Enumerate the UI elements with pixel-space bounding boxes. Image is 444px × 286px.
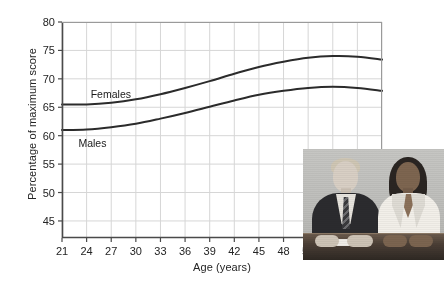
x-axis-title: Age (years) (62, 261, 382, 273)
x-tick-36: 36 (179, 246, 191, 257)
x-tick-42: 42 (228, 246, 240, 257)
x-tick-30: 30 (130, 246, 142, 257)
x-tick-21: 21 (56, 246, 68, 257)
photo-grain-overlay (303, 149, 444, 260)
y-tick-45: 45 (43, 215, 55, 226)
y-tick-65: 65 (43, 102, 55, 113)
x-tick-24: 24 (80, 246, 92, 257)
inset-photograph (303, 149, 444, 260)
x-tick-48: 48 (277, 246, 289, 257)
x-tick-27: 27 (105, 246, 117, 257)
y-axis-title: Percentage of maximum score (26, 14, 38, 234)
y-tick-55: 55 (43, 159, 55, 170)
y-tick-70: 70 (43, 73, 55, 84)
y-tick-60: 60 (43, 130, 55, 141)
x-tick-45: 45 (253, 246, 265, 257)
y-tick-80: 80 (43, 17, 55, 28)
y-tick-75: 75 (43, 45, 55, 56)
plot-area: 4550556065707580 21242730333639424548515… (62, 22, 382, 238)
y-tick-50: 50 (43, 187, 55, 198)
annotation-males: Males (78, 138, 106, 149)
x-tick-33: 33 (154, 246, 166, 257)
annotation-females: Females (91, 89, 131, 100)
x-tick-39: 39 (204, 246, 216, 257)
